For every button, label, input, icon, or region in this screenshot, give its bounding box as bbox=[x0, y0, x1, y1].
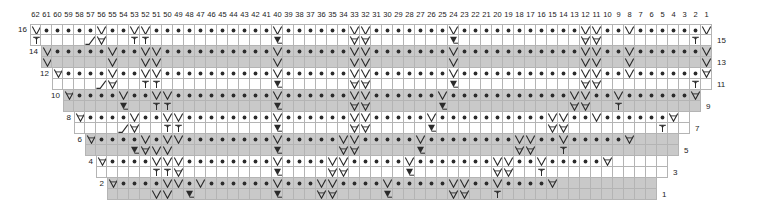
chart-cell bbox=[613, 178, 624, 189]
purl-dot-icon bbox=[404, 25, 415, 35]
slip-stitch-v-icon bbox=[558, 112, 569, 123]
chart-cell bbox=[206, 90, 217, 101]
cable-cross-right-icon bbox=[415, 145, 426, 156]
slip-stitch-v-icon bbox=[173, 178, 184, 189]
purl-dot-icon bbox=[195, 156, 206, 167]
slip-stitch-v-icon bbox=[173, 156, 184, 167]
chart-cell bbox=[415, 79, 426, 90]
chart-cell bbox=[162, 101, 173, 112]
purl-dot-icon bbox=[481, 68, 492, 79]
chart-cell bbox=[239, 24, 250, 35]
chart-cell bbox=[316, 79, 327, 90]
chart-cell bbox=[536, 90, 547, 101]
chart-cell bbox=[371, 46, 382, 57]
chart-cell bbox=[283, 178, 294, 189]
chart-cell bbox=[107, 101, 118, 112]
chart-cell bbox=[140, 24, 151, 35]
chart-cell bbox=[657, 46, 668, 57]
chart-cell bbox=[492, 167, 503, 178]
twisted-v-icon bbox=[349, 101, 360, 112]
slip-stitch-v-icon bbox=[547, 112, 558, 123]
chart-cell bbox=[602, 112, 613, 123]
slip-stitch-v-icon bbox=[459, 178, 470, 189]
chart-cell bbox=[349, 101, 360, 112]
slip-stitch-v-icon bbox=[580, 46, 591, 57]
chart-cell bbox=[118, 178, 129, 189]
chart-cell bbox=[338, 167, 349, 178]
slip-stitch-v-icon bbox=[360, 112, 371, 123]
purl-dot-icon bbox=[261, 156, 272, 167]
chart-cell bbox=[657, 24, 668, 35]
purl-dot-icon bbox=[470, 25, 481, 35]
chart-cell bbox=[261, 35, 272, 46]
column-number-37: 37 bbox=[305, 10, 316, 20]
purl-dot-icon bbox=[536, 90, 547, 101]
chart-cell bbox=[382, 90, 393, 101]
chart-cell bbox=[239, 46, 250, 57]
chart-cell bbox=[536, 145, 547, 156]
purl-dot-icon bbox=[140, 178, 151, 189]
purl-dot-icon bbox=[151, 25, 162, 35]
chart-cell bbox=[701, 68, 712, 79]
chart-cell bbox=[206, 156, 217, 167]
chart-cell bbox=[129, 167, 140, 178]
slip-stitch-v-icon bbox=[558, 134, 569, 145]
purl-dot-icon bbox=[580, 134, 591, 145]
chart-cell bbox=[195, 68, 206, 79]
chart-cell bbox=[569, 101, 580, 112]
chart-cell bbox=[415, 112, 426, 123]
slip-stitch-v-icon bbox=[360, 57, 371, 68]
chart-cell bbox=[349, 46, 360, 57]
purl-dot-icon bbox=[459, 46, 470, 57]
chart-cell bbox=[96, 123, 107, 134]
chart-cell bbox=[547, 79, 558, 90]
twisted-t-icon bbox=[129, 35, 140, 46]
chart-cell bbox=[404, 145, 415, 156]
chart-cell bbox=[52, 57, 63, 68]
chart-cell bbox=[426, 189, 437, 200]
chart-cell bbox=[602, 24, 613, 35]
purl-dot-icon bbox=[228, 134, 239, 145]
chart-cell bbox=[448, 112, 459, 123]
purl-dot-icon bbox=[85, 112, 96, 123]
column-number-43: 43 bbox=[239, 10, 250, 20]
purl-dot-icon bbox=[118, 178, 129, 189]
cable-cross-right-icon bbox=[437, 101, 448, 112]
purl-dot-icon bbox=[184, 134, 195, 145]
purl-dot-icon bbox=[261, 178, 272, 189]
slip-stitch-v-icon bbox=[591, 25, 602, 35]
chart-cell bbox=[635, 68, 646, 79]
purl-dot-icon bbox=[393, 46, 404, 57]
chart-cell bbox=[437, 35, 448, 46]
twisted-v-icon bbox=[580, 101, 591, 112]
slip-stitch-v-icon bbox=[162, 112, 173, 123]
chart-cell bbox=[162, 134, 173, 145]
chart-cell bbox=[41, 35, 52, 46]
chart-cell bbox=[668, 24, 679, 35]
chart-cell bbox=[481, 189, 492, 200]
slip-stitch-v-icon bbox=[272, 68, 283, 79]
purl-dot-icon bbox=[338, 90, 349, 101]
purl-dot-icon bbox=[305, 178, 316, 189]
chart-cell bbox=[140, 178, 151, 189]
chart-cell bbox=[349, 134, 360, 145]
chart-cell bbox=[151, 167, 162, 178]
twisted-v-icon bbox=[349, 123, 360, 134]
chart-cell bbox=[250, 68, 261, 79]
chart-cell bbox=[228, 167, 239, 178]
chart-cell bbox=[569, 134, 580, 145]
chart-cell bbox=[151, 156, 162, 167]
purl-dot-icon bbox=[547, 134, 558, 145]
slip-stitch-v-icon bbox=[107, 68, 118, 79]
chart-cell bbox=[514, 189, 525, 200]
purl-dot-icon bbox=[305, 134, 316, 145]
chart-cell bbox=[371, 112, 382, 123]
chart-cell bbox=[294, 101, 305, 112]
slip-stitch-v-icon bbox=[591, 46, 602, 57]
purl-dot-icon bbox=[261, 25, 272, 35]
purl-dot-icon bbox=[261, 46, 272, 57]
chart-cell bbox=[591, 57, 602, 68]
purl-dot-icon bbox=[371, 25, 382, 35]
chart-cell bbox=[481, 68, 492, 79]
twisted-t-icon bbox=[690, 79, 701, 90]
